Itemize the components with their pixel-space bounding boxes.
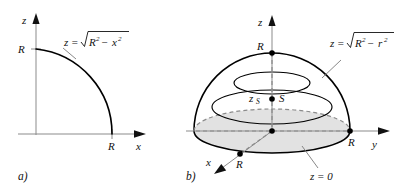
panel-b-caption: b) bbox=[186, 170, 196, 183]
panel-b-surface-equation: z = R 2 − r 2 bbox=[329, 33, 394, 50]
panel-b-surface-label-leader-line bbox=[322, 60, 341, 78]
panel-b-radicand-exp-1: 2 bbox=[362, 36, 366, 44]
panel-b-radicand-base-2: r bbox=[378, 37, 383, 49]
panel-a-curve-equation: z = R 2 − x 2 bbox=[63, 32, 129, 49]
panel-a-radicand-exp-1: 2 bbox=[96, 35, 100, 43]
panel-b-x-radius-point bbox=[237, 151, 243, 157]
panel-b-centroid-label: S bbox=[279, 92, 285, 104]
panel-a-z-tick-label: R bbox=[17, 43, 25, 55]
panel-b-radicand-base-1: R bbox=[354, 37, 362, 49]
panel-a-equation-lhs: z = bbox=[63, 36, 78, 48]
panel-b-y-axis-arrowhead bbox=[378, 127, 390, 134]
panel-b: z y x R R R bbox=[186, 15, 394, 183]
panel-b-z-axis-label: z bbox=[257, 16, 263, 28]
panel-b-y-axis-label: y bbox=[371, 138, 377, 150]
panel-a-radicand-base-1: R bbox=[88, 36, 96, 48]
panel-b-radicand-exp-2: 2 bbox=[384, 36, 388, 44]
panel-b-equation-lhs: z = bbox=[329, 37, 344, 49]
panel-a-x-axis-label: x bbox=[135, 140, 141, 152]
panel-b-apex-point bbox=[269, 50, 275, 56]
panel-b-centroid-point bbox=[269, 96, 275, 102]
panel-b-base-plane-label: z = 0 bbox=[309, 170, 333, 182]
panel-b-x-axis-label: x bbox=[205, 156, 211, 168]
panel-a-z-axis-label: z bbox=[21, 14, 27, 26]
figure-svg: z x R R z = R 2 − x 2 bbox=[0, 0, 415, 195]
figure-root: z x R R z = R 2 − x 2 bbox=[0, 0, 415, 195]
panel-a-x-axis-arrowhead bbox=[134, 130, 146, 137]
panel-b-equation-operator: − bbox=[367, 37, 374, 49]
panel-b-origin-point bbox=[269, 128, 275, 134]
panel-b-x-tick-label: R bbox=[235, 158, 243, 170]
panel-b-z-axis-arrowhead bbox=[268, 15, 275, 26]
panel-b-z-tick-label: R bbox=[256, 40, 264, 52]
panel-b-x-axis-arrowhead bbox=[214, 164, 226, 174]
panel-a-equation-operator: − bbox=[101, 36, 108, 48]
panel-a-quarter-circle-curve bbox=[36, 49, 112, 134]
panel-a-radicand-exp-2: 2 bbox=[118, 35, 122, 43]
panel-b-centroid-height-subscript: S bbox=[256, 97, 260, 106]
panel-b-centroid-height-label: z bbox=[248, 92, 254, 104]
panel-b-y-tick-label: R bbox=[347, 136, 355, 148]
panel-a-z-axis-arrowhead bbox=[32, 13, 39, 24]
panel-a-caption: a) bbox=[18, 170, 28, 183]
panel-b-y-radius-point bbox=[347, 128, 353, 134]
panel-a: z x R R z = R 2 − x 2 bbox=[17, 13, 146, 183]
panel-a-radicand-base-2: x bbox=[111, 36, 117, 48]
panel-a-x-tick-label: R bbox=[107, 140, 115, 152]
